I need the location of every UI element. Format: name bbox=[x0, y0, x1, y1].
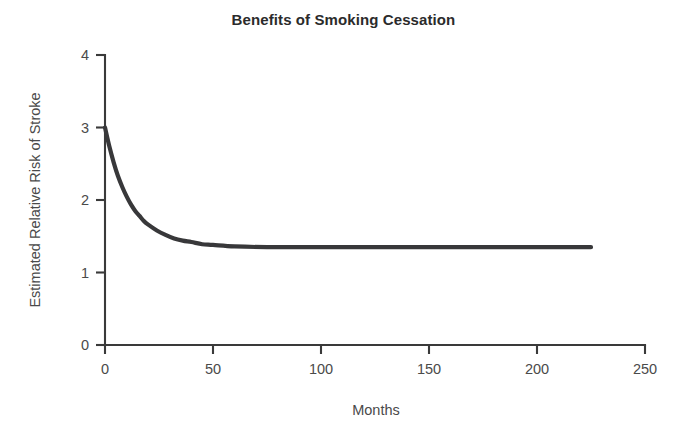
y-tick-label-2: 2 bbox=[81, 192, 89, 208]
x-tick-label-200: 200 bbox=[525, 361, 549, 377]
x-axis: 050100150200250 bbox=[101, 345, 657, 377]
plot-area: 01234 050100150200250 Months Estimated R… bbox=[0, 0, 687, 448]
y-axis-tick-labels: 01234 bbox=[81, 47, 89, 353]
x-axis-ticks bbox=[105, 345, 645, 354]
x-tick-label-0: 0 bbox=[101, 361, 109, 377]
x-axis-tick-labels: 050100150200250 bbox=[101, 361, 657, 377]
y-tick-label-0: 0 bbox=[81, 337, 89, 353]
y-tick-label-1: 1 bbox=[81, 265, 89, 281]
y-axis-ticks bbox=[96, 55, 105, 345]
y-axis: 01234 bbox=[81, 47, 105, 353]
x-tick-label-100: 100 bbox=[309, 361, 333, 377]
y-tick-label-4: 4 bbox=[81, 47, 89, 63]
data-series-group bbox=[105, 128, 591, 248]
chart-figure: Benefits of Smoking Cessation 01234 0501… bbox=[0, 0, 687, 448]
y-axis-title: Estimated Relative Risk of Stroke bbox=[27, 92, 43, 307]
x-axis-title: Months bbox=[352, 402, 400, 418]
x-tick-label-50: 50 bbox=[205, 361, 221, 377]
y-tick-label-3: 3 bbox=[81, 120, 89, 136]
x-tick-label-150: 150 bbox=[417, 361, 441, 377]
risk-decay-curve bbox=[105, 128, 591, 248]
x-tick-label-250: 250 bbox=[633, 361, 657, 377]
